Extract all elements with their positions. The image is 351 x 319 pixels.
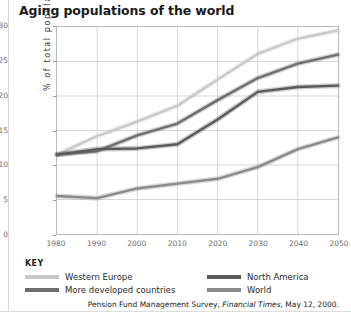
legend-heading: KEY	[25, 259, 340, 268]
figure: Aging populations of the world 051015202…	[0, 0, 351, 319]
source-suffix: , May 12, 2000.	[281, 300, 339, 309]
legend-item-north-america: North America	[207, 272, 309, 282]
x-tick-label: 2000	[117, 239, 157, 248]
legend-item-world: World	[207, 285, 271, 295]
y-tick-label: 30	[0, 21, 8, 30]
legend: KEY Western EuropeMore developed countri…	[25, 259, 340, 296]
y-tick-label: 0	[0, 230, 8, 239]
x-tick-label: 2040	[279, 239, 319, 248]
x-tick-label: 2050	[319, 239, 351, 248]
x-tick-label: 1980	[36, 239, 76, 248]
y-tick-label: 15	[0, 126, 8, 135]
legend-swatch-icon	[207, 275, 241, 279]
legend-swatch-icon	[25, 288, 59, 292]
legend-item-label: North America	[247, 272, 309, 282]
x-tick-label: 1990	[76, 239, 116, 248]
y-axis-label: % of total population aged 65 and over	[43, 0, 52, 91]
x-tick-label: 2020	[198, 239, 238, 248]
y-tick-label: 25	[0, 56, 8, 65]
source-prefix: Pension Fund Management Survey,	[88, 300, 223, 309]
legend-items: Western EuropeMore developed countriesNo…	[25, 272, 340, 296]
y-tick-mark	[53, 235, 56, 236]
legend-swatch-icon	[25, 275, 59, 279]
y-tick-label: 20	[0, 91, 8, 100]
legend-item-western-europe: Western Europe	[25, 272, 132, 282]
page-left-rule	[8, 0, 9, 311]
y-tick-label: 10	[0, 160, 8, 169]
plot-area: % of total population aged 65 and over	[56, 26, 339, 235]
legend-item-label: World	[247, 285, 271, 295]
source-citation: Pension Fund Management Survey, Financia…	[88, 300, 339, 309]
page-bottom-rule	[0, 311, 351, 312]
data-series-group	[57, 27, 338, 234]
source-publication: Financial Times	[222, 300, 280, 309]
x-tick-label: 2030	[238, 239, 278, 248]
legend-item-more-developed-countries: More developed countries	[25, 285, 175, 295]
y-tick-label: 5	[0, 195, 8, 204]
x-tick-label: 2010	[157, 239, 197, 248]
legend-item-label: More developed countries	[65, 285, 175, 295]
legend-item-label: Western Europe	[65, 272, 132, 282]
legend-swatch-icon	[207, 288, 241, 292]
